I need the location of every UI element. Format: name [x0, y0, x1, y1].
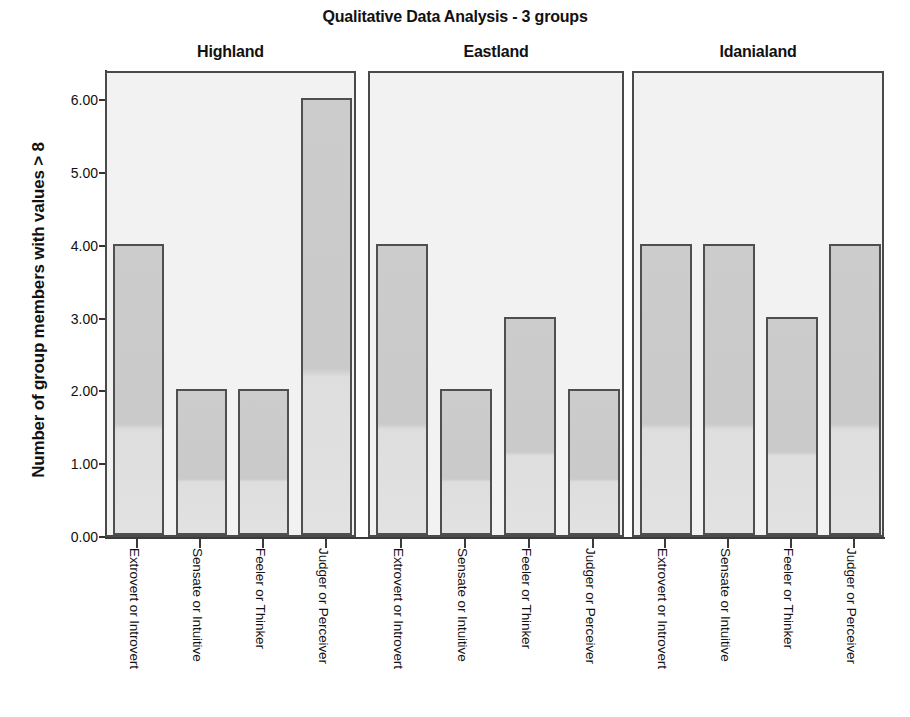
page-title: Qualitative Data Analysis - 3 groups: [0, 8, 910, 26]
y-axis: 0.001.002.003.004.005.006.00: [60, 60, 106, 550]
y-axis-tick-label: 1.00: [71, 457, 98, 471]
y-axis-tick: 3.00: [60, 312, 106, 326]
x-axis-tick-label: Extrovert or Introvert: [391, 548, 406, 669]
x-axis-tick-mark: [325, 539, 327, 548]
x-axis-tick-mark: [592, 539, 594, 548]
x-axis-tick-label: Judger or Perceiver: [844, 548, 859, 664]
x-axis-tick-label: Feeler or Thinker: [253, 548, 268, 649]
panel-title: Highland: [107, 43, 354, 61]
x-axis-tick-label: Extrovert or Introvert: [655, 548, 670, 669]
bar: [238, 389, 289, 535]
bar: [703, 244, 755, 535]
bar: [504, 317, 556, 535]
panel-highland: Highland: [105, 71, 356, 537]
x-axis-tick-label: Judger or Perceiver: [316, 548, 331, 664]
panel-idanialand: Idanialand: [632, 71, 884, 537]
x-axis-tick-mark: [262, 539, 264, 548]
x-axis-tick-label: Extrovert or Introvert: [127, 548, 142, 669]
y-axis-tick: 5.00: [60, 166, 106, 180]
x-axis-tick-label: Sensate or Intuitive: [455, 548, 470, 662]
bar: [568, 389, 620, 535]
x-axis-tick-mark: [400, 539, 402, 548]
x-axis-tick-mark: [727, 539, 729, 548]
y-axis-tick-label: 5.00: [71, 166, 98, 180]
y-axis-tick: 2.00: [60, 384, 106, 398]
y-axis-tick: 1.00: [60, 457, 106, 471]
bar: [376, 244, 428, 535]
panel-plot-area: [634, 73, 882, 535]
x-axis-tick-label: Feeler or Thinker: [781, 548, 796, 649]
x-axis-tick-mark: [790, 539, 792, 548]
x-axis-line: [105, 537, 885, 539]
y-axis-tick-label: 0.00: [71, 530, 98, 544]
x-axis-tick-label: Sensate or Intuitive: [190, 548, 205, 662]
x-axis-tick-mark: [464, 539, 466, 548]
y-axis-tick-label: 3.00: [71, 312, 98, 326]
bar: [640, 244, 692, 535]
bar: [176, 389, 227, 535]
y-axis-tick: 0.00: [60, 530, 106, 544]
x-axis-tick-mark: [199, 539, 201, 548]
x-axis-tick-label: Sensate or Intuitive: [718, 548, 733, 662]
y-axis-tick-label: 2.00: [71, 384, 98, 398]
bar: [829, 244, 881, 535]
bar: [113, 244, 164, 535]
x-axis-tick-label: Feeler or Thinker: [519, 548, 534, 649]
bar: [301, 98, 352, 535]
bar: [766, 317, 818, 535]
panel-plot-area: [370, 73, 622, 535]
y-axis-title: Number of group members with values > 8: [29, 75, 49, 545]
y-axis-tick: 6.00: [60, 93, 106, 107]
x-axis-tick-mark: [136, 539, 138, 548]
y-axis-tick: 4.00: [60, 239, 106, 253]
x-axis-tick-mark: [528, 539, 530, 548]
x-axis-tick-mark: [853, 539, 855, 548]
x-axis-tick-label: Judger or Perceiver: [583, 548, 598, 664]
panel-title: Idanialand: [634, 43, 882, 61]
panel-eastland: Eastland: [368, 71, 624, 537]
bar: [440, 389, 492, 535]
x-axis-tick-mark: [664, 539, 666, 548]
panel-plot-area: [107, 73, 354, 535]
y-axis-tick-label: 6.00: [71, 93, 98, 107]
panel-title: Eastland: [370, 43, 622, 61]
y-axis-tick-label: 4.00: [71, 239, 98, 253]
